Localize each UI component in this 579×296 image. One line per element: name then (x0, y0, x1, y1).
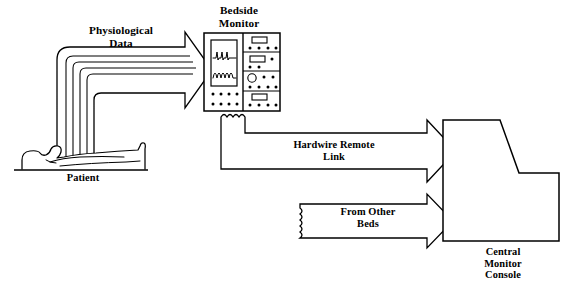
central-monitor-console-body (443, 120, 559, 241)
label-hardwire-remote-link: Hardwire Remote Link (275, 139, 393, 162)
module-3-knob (248, 74, 256, 82)
label-central-monitor-console: Central Monitor Console (466, 246, 540, 281)
label-bedside-monitor: Bedside Monitor (197, 4, 281, 29)
module-2-readout (250, 56, 265, 62)
label-from-other-beds: From Other Beds (320, 206, 416, 229)
label-physiological-data: Physiological Data (62, 24, 180, 49)
physiological-data-arrow (57, 32, 212, 160)
diagram-canvas: Physiological Data Bedside Monitor Patie… (0, 0, 579, 296)
label-patient: Patient (48, 172, 118, 184)
module-1-readout (252, 37, 267, 43)
bedside-monitor (204, 33, 280, 111)
central-monitor-console (443, 120, 559, 241)
module-4-readout (252, 94, 267, 100)
bedside-monitor-screen (211, 40, 237, 86)
